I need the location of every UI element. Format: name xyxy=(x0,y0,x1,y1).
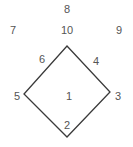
label-8: 8 xyxy=(64,4,70,15)
label-7: 7 xyxy=(10,25,16,36)
label-9: 9 xyxy=(116,25,122,36)
numbered-diamond-diagram: 8 7 10 9 6 4 5 1 3 2 xyxy=(0,0,133,147)
label-6: 6 xyxy=(39,54,45,65)
label-4: 4 xyxy=(93,56,99,67)
label-1: 1 xyxy=(66,91,72,102)
label-3: 3 xyxy=(115,91,121,102)
label-10: 10 xyxy=(61,25,73,36)
label-5: 5 xyxy=(14,91,20,102)
label-2: 2 xyxy=(64,120,70,131)
